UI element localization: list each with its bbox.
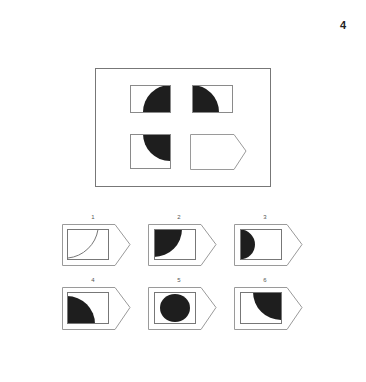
option-6-label: 6 xyxy=(259,277,271,283)
question-cell-top-right xyxy=(165,85,233,139)
option-6-button[interactable] xyxy=(234,287,303,330)
question-cell-missing xyxy=(191,135,247,170)
option-3-button[interactable] xyxy=(234,224,303,266)
option-5-label: 5 xyxy=(173,277,185,283)
option-5-button[interactable] xyxy=(148,287,217,330)
option-3-label: 3 xyxy=(259,214,271,220)
option-1-button[interactable] xyxy=(62,224,131,266)
option-2-label: 2 xyxy=(173,214,185,220)
option-2-button[interactable] xyxy=(148,224,217,266)
option-4-button[interactable] xyxy=(62,287,131,330)
option-4-label: 4 xyxy=(87,277,99,283)
question-cell-top-left xyxy=(131,85,198,139)
question-cell-bottom-left xyxy=(131,107,198,169)
question-frame xyxy=(96,69,271,187)
option-1-label: 1 xyxy=(87,214,99,220)
